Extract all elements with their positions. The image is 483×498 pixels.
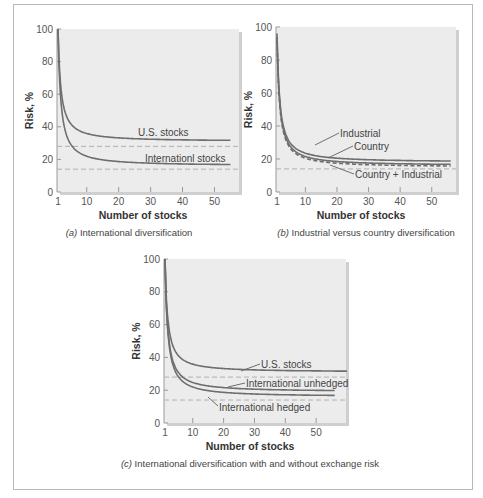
x-axis-label: Number of stocks (206, 440, 295, 452)
x-tick-label: 20 (218, 427, 230, 438)
y-tick-label: 80 (149, 286, 161, 297)
y-axis-label: Risk, % (130, 322, 142, 360)
x-tick-label: 40 (280, 427, 292, 438)
y-tick-label: 40 (42, 121, 54, 132)
international-hedged-label: International hedged (219, 402, 310, 413)
x-tick-label: 40 (395, 196, 407, 207)
x-tick-label: 50 (426, 196, 438, 207)
panel-caption: (b) Industrial versus country diversific… (277, 227, 454, 238)
x-tick-label: 20 (113, 196, 125, 207)
x-tick-label: 30 (249, 427, 261, 438)
y-tick-label: 0 (154, 418, 160, 429)
y-tick-label: 100 (255, 22, 272, 33)
y-tick-label: 80 (42, 56, 54, 67)
x-tick-label: 10 (81, 196, 93, 207)
x-tick-label: 20 (331, 196, 343, 207)
x-tick-label: 1 (162, 427, 168, 438)
us-stocks-label: U.S. stocks (261, 359, 312, 370)
y-tick-label: 100 (143, 254, 160, 265)
figure-canvas: 02040608010011020304050Number of stocksR… (0, 0, 483, 498)
x-tick-label: 10 (187, 427, 199, 438)
y-tick-label: 0 (47, 187, 53, 198)
plot-area (164, 259, 346, 423)
x-tick-label: 40 (177, 196, 189, 207)
chart-panel-b: 02040608010011020304050Number of stocksR… (242, 22, 459, 239)
x-tick-label: 10 (300, 196, 312, 207)
chart-panel-a: 02040608010011020304050Number of stocksR… (23, 24, 242, 239)
industrial-label: Industrial (340, 128, 381, 139)
us-stocks-label: U.S. stocks (138, 127, 189, 138)
panel-caption: (a) International diversification (66, 227, 193, 238)
y-axis-label: Risk, % (242, 90, 254, 128)
international-stocks-label: Internationl stocks (145, 153, 226, 164)
y-tick-label: 0 (266, 187, 272, 198)
panel-caption: (c) International diversification with a… (121, 458, 379, 469)
x-tick-label: 1 (274, 196, 280, 207)
chart-panel-c: 02040608010011020304050Number of stocksR… (121, 254, 379, 470)
x-axis-label: Number of stocks (99, 209, 188, 221)
plot-area (276, 27, 456, 192)
y-tick-label: 20 (42, 154, 54, 165)
country-label: Country (354, 141, 389, 152)
country-industrial-label: Country + Industrial (355, 169, 442, 180)
y-tick-label: 40 (149, 352, 161, 363)
x-tick-label: 1 (55, 196, 61, 207)
x-axis-label: Number of stocks (317, 209, 406, 221)
y-tick-label: 60 (261, 88, 273, 99)
x-tick-label: 50 (209, 196, 221, 207)
y-tick-label: 20 (261, 154, 273, 165)
y-tick-label: 60 (42, 89, 54, 100)
y-tick-label: 80 (261, 55, 273, 66)
y-tick-label: 40 (261, 121, 273, 132)
x-tick-label: 50 (311, 427, 323, 438)
international-unhedged-label: International unhedged (246, 378, 348, 389)
y-tick-label: 60 (149, 319, 161, 330)
y-tick-label: 20 (149, 385, 161, 396)
y-tick-label: 100 (36, 24, 53, 35)
x-tick-label: 30 (363, 196, 375, 207)
plot-area (57, 29, 239, 192)
x-tick-label: 30 (145, 196, 157, 207)
y-axis-label: Risk, % (23, 91, 35, 129)
